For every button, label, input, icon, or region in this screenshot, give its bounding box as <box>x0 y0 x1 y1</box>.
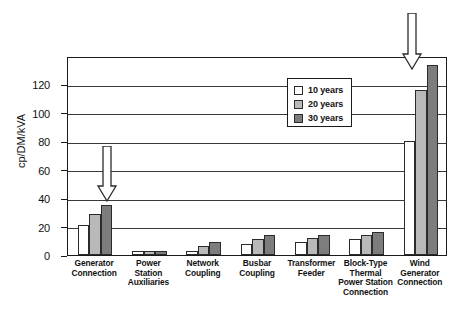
bar <box>415 90 427 255</box>
bar <box>361 235 373 255</box>
arrow-wind-generator-connection-icon <box>402 13 422 70</box>
bars-layer <box>68 58 446 255</box>
y-tick-label: 60 <box>38 165 50 176</box>
bar <box>132 251 144 255</box>
legend-swatch-icon-30-years <box>294 114 303 123</box>
bar <box>186 251 198 255</box>
legend-label-30-years: 30 years <box>308 114 343 123</box>
bar <box>155 251 167 255</box>
legend-swatch-icon-10-years <box>294 86 303 95</box>
legend: 10 years 20 years 30 years <box>287 78 352 127</box>
legend-label-10-years: 10 years <box>308 86 343 95</box>
bar <box>295 242 307 255</box>
bar-chart: cp/DM/kVA 020406080100120 10 years 20 ye… <box>0 0 469 312</box>
bar <box>307 238 319 255</box>
y-tick-label: 20 <box>38 222 50 233</box>
legend-item-20-years: 20 years <box>294 97 351 111</box>
y-tick-label: 100 <box>32 108 50 119</box>
bar <box>101 205 113 255</box>
x-axis-label-line: Connection <box>326 288 406 298</box>
x-axis-label-line: Auxiliaries <box>108 278 188 288</box>
arrow-generator-connection-icon <box>97 146 117 202</box>
legend-swatch-icon-20-years <box>294 100 303 109</box>
bar <box>198 246 210 255</box>
y-tick-label: 120 <box>32 80 50 91</box>
y-tick-label: 40 <box>38 194 50 205</box>
bar <box>89 214 101 255</box>
x-axis-label-line: Connection <box>380 278 460 288</box>
bar <box>349 239 361 255</box>
bar <box>252 239 264 255</box>
legend-label-20-years: 20 years <box>308 100 343 109</box>
bar <box>264 235 276 255</box>
bar <box>209 242 221 255</box>
bar <box>144 251 156 255</box>
bar <box>404 141 416 255</box>
x-axis-label: WindGeneratorConnection <box>380 259 460 288</box>
legend-item-30-years: 30 years <box>294 111 351 125</box>
y-tick-label: 80 <box>38 137 50 148</box>
x-axis-labels: GeneratorConnectionPowerStationAuxiliari… <box>0 259 469 312</box>
bar <box>78 225 90 255</box>
bar <box>241 244 253 255</box>
plot-area <box>67 57 447 256</box>
bar <box>427 65 439 255</box>
bar <box>318 235 330 255</box>
bar <box>372 232 384 255</box>
legend-item-10-years: 10 years <box>294 83 351 97</box>
